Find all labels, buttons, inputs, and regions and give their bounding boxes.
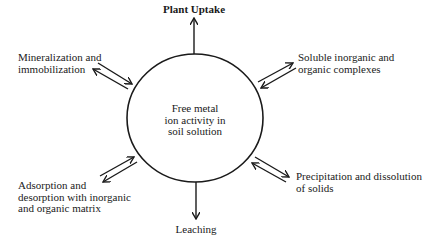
- leaching-label: Leaching: [156, 223, 236, 235]
- center-label-line: Free metal: [145, 103, 245, 115]
- plant-uptake-label: Plant Uptake: [154, 3, 234, 15]
- label-line: Mineralization and: [18, 52, 101, 64]
- label-line: of solids: [296, 183, 422, 195]
- free-metal-ion-label: Free metal ion activity in soil solution: [145, 103, 245, 138]
- metal-speciation-diagram: Plant Uptake Leaching Free metal ion act…: [0, 0, 428, 248]
- label-line: organic complexes: [298, 64, 394, 76]
- adsorption-label: Adsorption and desorption with inorganic…: [18, 180, 131, 215]
- mineralization-label: Mineralization and immobilization: [18, 52, 101, 75]
- soluble-complexes-double-arrow: [258, 63, 296, 88]
- label-line: Adsorption and: [18, 180, 131, 192]
- label-line: immobilization: [18, 64, 101, 76]
- soluble-complexes-label: Soluble inorganic and organic complexes: [298, 52, 394, 75]
- label-line: Precipitation and dissolution: [296, 171, 422, 183]
- precipitation-label: Precipitation and dissolution of solids: [296, 171, 422, 194]
- adsorption-double-arrow: [100, 157, 137, 182]
- center-label-line: soil solution: [145, 126, 245, 138]
- precipitation-double-arrow: [252, 157, 289, 182]
- label-line: Soluble inorganic and: [298, 52, 394, 64]
- label-line: and organic matrix: [18, 203, 131, 215]
